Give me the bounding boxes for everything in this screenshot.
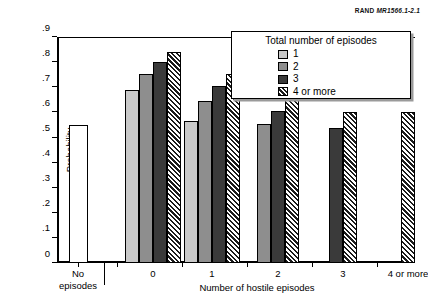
- y-tick: [52, 212, 57, 213]
- bar-group3-series3: [329, 128, 343, 264]
- bar-group2-series3: [271, 111, 285, 263]
- x-tick: [78, 263, 79, 267]
- legend-item-4: 4 or more: [232, 86, 410, 99]
- x-label-2: 2: [275, 268, 280, 279]
- bar-group2-series4: [285, 94, 299, 263]
- legend-item-3: 3: [232, 73, 410, 86]
- y-tick: [52, 262, 57, 263]
- bar-group1-series4: [226, 74, 240, 264]
- y-tick: [52, 237, 57, 238]
- axis-divider: [104, 263, 105, 285]
- x-label-3: 3: [340, 268, 345, 279]
- y-tick-label: .2: [42, 199, 50, 209]
- y-tick: [52, 36, 57, 37]
- legend-item-2: 2: [232, 61, 410, 74]
- y-tick-label: .7: [42, 73, 50, 83]
- credit-org: RAND: [355, 7, 375, 14]
- bar-group0-series1: [125, 90, 139, 263]
- bar-no-episodes: [69, 125, 88, 263]
- legend-swatch-hatched: [278, 87, 288, 96]
- legend-label-4: 4 or more: [293, 87, 336, 97]
- x-label-no-episodes: No episodes: [59, 268, 97, 291]
- legend-swatch-dark: [278, 75, 288, 84]
- legend-label-2: 2: [293, 62, 299, 72]
- legend-item-1: 1: [232, 48, 410, 61]
- y-tick: [52, 187, 57, 188]
- x-label-line1: No: [59, 268, 97, 280]
- bar-group4ormore-series4: [401, 112, 415, 263]
- x-label-0: 0: [150, 268, 155, 279]
- x-tick: [247, 263, 248, 267]
- y-tick-label: 0: [45, 249, 50, 259]
- bar-group1-series3: [212, 86, 226, 263]
- bar-group0-series2: [139, 74, 153, 264]
- y-tick: [52, 111, 57, 112]
- y-tick-label: .4: [42, 148, 50, 158]
- y-tick: [52, 61, 57, 62]
- bar-group3-series4: [343, 112, 357, 263]
- y-axis-line: [57, 37, 59, 263]
- legend-label-3: 3: [293, 74, 299, 84]
- legend-swatch-light-gray: [278, 50, 288, 59]
- y-tick-label: .3: [42, 173, 50, 183]
- y-tick-label: .6: [42, 98, 50, 108]
- x-label-1: 1: [209, 268, 214, 279]
- credit-ref: MR1566.1-2.1: [376, 7, 420, 14]
- y-tick: [52, 86, 57, 87]
- legend-swatch-medium-gray: [278, 62, 288, 71]
- y-tick: [52, 162, 57, 163]
- y-tick: [52, 137, 57, 138]
- x-tick: [117, 263, 118, 267]
- legend-title: Total number of episodes: [232, 35, 410, 47]
- x-tick: [182, 263, 183, 267]
- bar-group0-series3: [153, 62, 167, 263]
- bar-group1-series2: [198, 101, 212, 263]
- x-tick: [312, 263, 313, 267]
- y-tick-label: .5: [42, 123, 50, 133]
- legend-label-1: 1: [293, 49, 299, 59]
- x-tick: [377, 263, 378, 267]
- bar-group0-series4: [167, 52, 181, 263]
- x-label-4-or-more: 4 or more: [388, 268, 428, 279]
- bar-group2-series2: [257, 124, 271, 263]
- bar-group1-series1: [184, 121, 198, 263]
- y-tick-label: .8: [42, 48, 50, 58]
- x-label-line2: episodes: [59, 280, 97, 292]
- y-tick-label: .1: [42, 224, 50, 234]
- source-credit: RAND MR1566.1-2.1: [355, 7, 420, 14]
- x-axis-title: Number of hostile episodes: [199, 282, 314, 293]
- legend: Total number of episodes 1 2 3 4 or more: [231, 31, 411, 99]
- y-tick-label: .9: [42, 23, 50, 33]
